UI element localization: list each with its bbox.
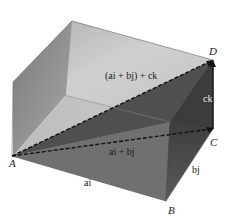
point-label-d: D [209, 46, 217, 57]
label-bj: bj [192, 165, 200, 175]
label-ai: ai [84, 178, 91, 188]
point-label-a: A [9, 158, 16, 169]
box-figure [0, 0, 230, 223]
vector-box-diagram: D C B A (ai + bj) + ck ck ai + bj bj ai [0, 0, 230, 223]
label-ai-plus-bj: ai + bj [109, 147, 135, 157]
point-label-c: C [210, 137, 217, 148]
label-ck: ck [203, 94, 212, 104]
point-label-b: B [168, 205, 175, 216]
label-diagonal-vector: (ai + bj) + ck [105, 71, 157, 81]
